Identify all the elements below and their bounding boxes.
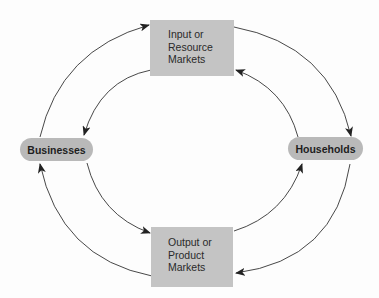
output-market-label-line-1: Output or (168, 236, 233, 249)
arrow-input-to-businesses (84, 70, 151, 135)
input-market-label-line-1: Input or (168, 28, 234, 41)
output-product-markets-box: Output or Product Markets (151, 227, 233, 287)
households-node: Households (288, 137, 363, 160)
arrow-households-to-output (236, 164, 350, 273)
arrow-businesses-to-input (40, 25, 149, 137)
output-market-label-line-3: Markets (168, 261, 233, 274)
circular-flow-diagram: Input or Resource Markets Output or Prod… (0, 0, 379, 298)
arrow-input-to-households (234, 27, 351, 136)
input-market-label-line-3: Markets (168, 53, 234, 66)
businesses-label: Businesses (27, 144, 85, 156)
arrow-output-to-households (234, 164, 302, 231)
input-market-label-line-2: Resource (168, 41, 234, 54)
arrow-output-to-businesses (40, 164, 152, 276)
households-label: Households (295, 143, 355, 155)
arrow-businesses-to-output (87, 163, 150, 233)
input-resource-markets-box: Input or Resource Markets (150, 20, 234, 76)
arrow-households-to-input (236, 70, 298, 137)
output-market-label-line-2: Product (168, 249, 233, 262)
businesses-node: Businesses (20, 138, 93, 161)
